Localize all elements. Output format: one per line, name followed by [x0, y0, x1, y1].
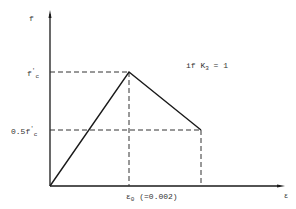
y-axis-label-text: f — [29, 14, 34, 23]
stress-strain-curve — [50, 72, 201, 186]
peak-stress-label: f'c — [27, 68, 39, 80]
peak-stress-label-sub: c — [35, 73, 39, 80]
peak-strain-label: ε0 (=0.002) — [126, 193, 178, 203]
x-axis-label-text: ε — [284, 192, 288, 200]
half-stress-label-sub: c — [34, 131, 38, 138]
condition-label-tail: = 1 — [209, 61, 228, 70]
y-axis-arrow-icon — [49, 10, 52, 18]
condition-label: if K3 = 1 — [186, 62, 228, 72]
peak-strain-label-value: (=0.002) — [134, 192, 177, 201]
y-axis-label: f — [29, 15, 34, 23]
x-axis-label: ε — [284, 193, 288, 200]
half-stress-label-main: 0.5f — [11, 127, 30, 136]
half-stress-label: 0.5f'c — [11, 126, 37, 138]
stress-strain-diagram — [0, 0, 296, 209]
condition-label-main: if K — [186, 61, 205, 70]
x-axis-arrow-icon — [277, 185, 285, 188]
